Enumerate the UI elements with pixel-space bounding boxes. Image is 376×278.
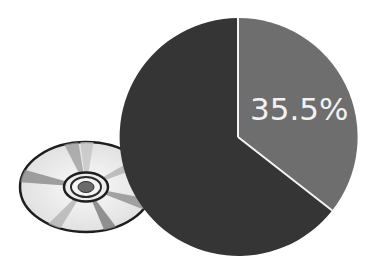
slice-percentage-label: 35.5%: [250, 94, 348, 125]
pie-chart-figure: 35.5%: [0, 0, 376, 278]
pie-chart: [120, 18, 358, 256]
chart-canvas: [0, 0, 376, 278]
